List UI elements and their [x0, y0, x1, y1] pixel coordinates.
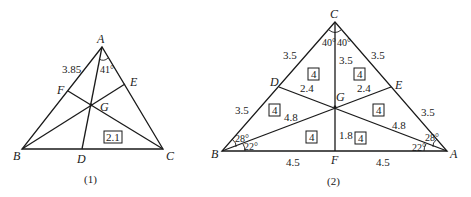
area-box-ceg: 4: [354, 68, 365, 80]
angle-label-a: 41°: [100, 64, 114, 75]
svg-text:4: 4: [357, 68, 363, 80]
length-bg: 4.8: [284, 111, 298, 123]
side-label-af: 3.85: [62, 63, 82, 75]
length-ea: 3.5: [421, 106, 435, 118]
area-box-cdg: 4: [308, 68, 319, 80]
median-ad: [82, 47, 102, 149]
angle-a-upper: 28°: [425, 132, 439, 143]
geometry-figures: A B C D E F G 3.85 41° 2.1 (1) C B A F D…: [0, 0, 471, 197]
svg-text:4: 4: [272, 104, 278, 116]
vertex-label-e: E: [394, 78, 403, 92]
centroid-dot: [334, 106, 337, 109]
area-box-bdg: 4: [269, 104, 280, 116]
angle-c-left: 40°: [322, 37, 336, 48]
length-ag: 4.8: [392, 119, 406, 131]
length-eg: 2.4: [357, 82, 371, 94]
vertex-label-b: B: [13, 149, 21, 163]
vertex-label-e: E: [129, 75, 138, 89]
svg-text:4: 4: [358, 132, 364, 144]
vertex-label-d: D: [76, 152, 86, 166]
angle-a-lower: 22°: [412, 142, 426, 153]
svg-text:4: 4: [376, 104, 382, 116]
angle-c-right: 40°: [337, 37, 351, 48]
length-cd: 3.5: [283, 49, 297, 61]
area-box-aeg: 4: [373, 104, 384, 116]
length-fa: 4.5: [376, 156, 390, 168]
vertex-label-c: C: [166, 149, 175, 163]
area-box-bfg: 4: [306, 131, 317, 143]
vertex-label-f: F: [56, 83, 65, 97]
vertex-label-d: D: [269, 75, 279, 89]
vertex-label-f: F: [330, 153, 339, 167]
svg-text:4: 4: [309, 131, 315, 143]
figure-2: C B A F D E G 3.5 3.5 3.5 3.5 3.5 2.4 2.…: [211, 7, 458, 188]
length-bf: 4.5: [286, 156, 300, 168]
length-dg: 2.4: [300, 82, 314, 94]
length-cg: 3.5: [339, 54, 353, 66]
svg-text:4: 4: [311, 68, 317, 80]
vertex-label-g: G: [100, 100, 109, 114]
vertex-label-a: A: [449, 147, 458, 161]
area-box-afg: 4: [355, 132, 366, 144]
length-gf: 1.8: [339, 129, 353, 141]
length-db: 3.5: [235, 104, 249, 116]
vertex-label-a: A: [96, 32, 105, 46]
length-ce: 3.5: [371, 49, 385, 61]
caption-1: (1): [84, 173, 97, 186]
vertex-label-b: B: [211, 147, 219, 161]
caption-2: (2): [327, 175, 340, 188]
figure-1: A B C D E F G 3.85 41° 2.1 (1): [13, 32, 175, 186]
vertex-label-g: G: [336, 90, 345, 104]
centroid-dot: [90, 104, 93, 107]
angle-b-lower: 22°: [244, 141, 258, 152]
vertex-label-c: C: [330, 7, 339, 21]
area-value: 2.1: [106, 131, 120, 143]
